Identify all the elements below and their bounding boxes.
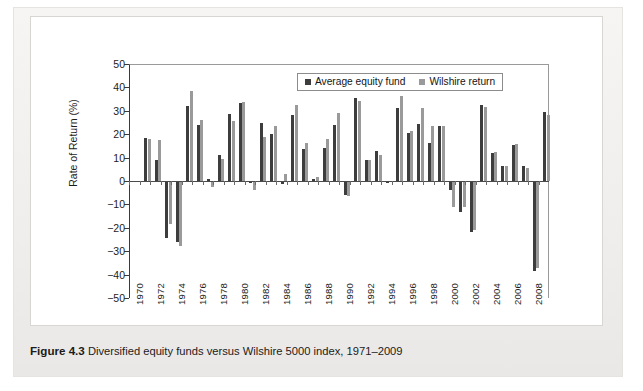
bar <box>326 139 329 181</box>
bar <box>186 106 189 181</box>
y-axis-title: Rate of Return (%) <box>67 73 79 213</box>
bar <box>155 160 158 181</box>
x-tick-mark <box>423 181 424 185</box>
x-tick-mark <box>234 181 235 185</box>
y-tick-label: −10 <box>97 198 125 210</box>
bar <box>375 151 378 181</box>
bar <box>239 103 242 181</box>
figure-panel: 50403020100−10−20−30−40−50 Rate of Retur… <box>30 16 603 326</box>
bar <box>365 160 368 181</box>
x-tick-label: 1980 <box>239 283 250 305</box>
bar <box>473 181 476 230</box>
x-tick-label: 1986 <box>302 283 313 305</box>
bar <box>344 181 347 195</box>
y-tick-label: 30 <box>97 105 125 117</box>
x-tick-mark <box>255 181 256 185</box>
x-tick-label: 1974 <box>176 283 187 305</box>
x-tick-label: 1990 <box>344 283 355 305</box>
bar <box>379 155 382 181</box>
bar <box>491 153 494 181</box>
x-tick-label: 1992 <box>365 283 376 305</box>
x-tick-mark <box>224 181 225 185</box>
bar <box>179 181 182 246</box>
bar <box>291 115 294 181</box>
x-tick-mark <box>360 181 361 185</box>
bar <box>218 155 221 181</box>
bar <box>190 91 193 181</box>
x-tick-mark <box>276 181 277 185</box>
bar <box>407 133 410 181</box>
y-tick-label: −20 <box>97 222 125 234</box>
bar <box>421 108 424 181</box>
bar <box>148 139 151 181</box>
x-tick-mark <box>245 181 246 185</box>
figure-number: Figure 4.3 <box>30 344 85 357</box>
bar <box>333 125 336 181</box>
x-tick-mark <box>203 181 204 185</box>
legend-entry: Average equity fund <box>305 76 405 87</box>
bar <box>470 181 473 232</box>
x-tick-mark <box>213 181 214 185</box>
x-tick-mark <box>402 181 403 185</box>
x-tick-mark <box>140 181 141 185</box>
bar <box>176 181 179 242</box>
x-tick-label: 1972 <box>155 283 166 305</box>
bar <box>484 107 487 181</box>
x-tick-mark <box>455 181 456 185</box>
y-tick-label: 40 <box>97 81 125 93</box>
x-tick-mark <box>486 181 487 185</box>
x-tick-mark <box>539 181 540 185</box>
x-tick-mark <box>297 181 298 185</box>
x-tick-mark <box>392 181 393 185</box>
legend-swatch-icon <box>305 79 311 85</box>
x-tick-mark <box>150 181 151 185</box>
legend-entry: Wilshire return <box>419 76 495 87</box>
y-tick-label: 20 <box>97 128 125 140</box>
bar <box>547 115 550 181</box>
x-tick-label: 2006 <box>512 283 523 305</box>
legend-label: Wilshire return <box>429 76 495 87</box>
bar <box>165 181 168 238</box>
bar <box>526 168 529 181</box>
bar <box>431 126 434 181</box>
bar <box>501 166 504 181</box>
x-tick-mark <box>518 181 519 185</box>
bar <box>533 181 536 271</box>
legend-swatch-icon <box>419 79 425 85</box>
x-tick-mark <box>287 181 288 185</box>
screenshot-root: 50403020100−10−20−30−40−50 Rate of Retur… <box>0 0 643 391</box>
figure-caption: Figure 4.3 Diversified equity funds vers… <box>30 338 603 364</box>
bar <box>410 131 413 181</box>
bar <box>305 143 308 181</box>
bar <box>480 105 483 181</box>
x-tick-label: 1996 <box>407 283 418 305</box>
bar <box>158 140 161 181</box>
x-tick-mark <box>318 181 319 185</box>
bar <box>200 120 203 181</box>
x-tick-label: 1978 <box>218 283 229 305</box>
x-tick-label: 2000 <box>449 283 460 305</box>
x-tick-label: 1976 <box>197 283 208 305</box>
x-tick-label: 1982 <box>260 283 271 305</box>
x-tick-label: 1984 <box>281 283 292 305</box>
x-tick-mark <box>339 181 340 185</box>
y-tick-label: −50 <box>97 292 125 304</box>
x-tick-mark <box>266 181 267 185</box>
x-tick-mark <box>371 181 372 185</box>
bar <box>354 98 357 181</box>
y-axis-tick-labels: 50403020100−10−20−30−40−50 <box>93 64 125 298</box>
x-tick-label: 1994 <box>386 283 397 305</box>
chart-legend: Average equity fundWilshire return <box>297 73 503 91</box>
bar <box>438 126 441 181</box>
y-tick-label: 0 <box>97 175 125 187</box>
bar <box>400 96 403 181</box>
bar <box>197 125 200 181</box>
bar <box>232 121 235 181</box>
bar <box>428 143 431 181</box>
bar <box>302 149 305 181</box>
bar <box>494 152 497 181</box>
x-tick-mark <box>350 181 351 185</box>
x-tick-mark <box>528 181 529 185</box>
x-tick-mark <box>413 181 414 185</box>
x-tick-label: 2002 <box>470 283 481 305</box>
